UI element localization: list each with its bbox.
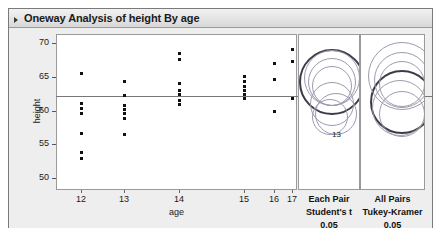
x-tick-label: 12 bbox=[66, 194, 96, 204]
data-point bbox=[80, 102, 83, 105]
comparison-circles-panel-each-pair[interactable]: 13 bbox=[298, 34, 360, 190]
data-point bbox=[243, 93, 246, 96]
triangle-down-icon[interactable] bbox=[13, 14, 22, 23]
data-point bbox=[243, 80, 246, 83]
data-point bbox=[80, 112, 83, 115]
screenshot-root: Oneway Analysis of height By age height5… bbox=[0, 0, 441, 236]
data-point bbox=[80, 151, 83, 154]
x-tick-mark bbox=[124, 190, 125, 193]
comparison-circle[interactable] bbox=[379, 91, 425, 137]
comparison-circle[interactable] bbox=[315, 93, 357, 135]
data-point bbox=[123, 117, 126, 120]
comparison-circle-group-label: 13 bbox=[332, 130, 341, 139]
window-title-bar: Oneway Analysis of height By age bbox=[9, 9, 432, 28]
data-point bbox=[123, 112, 126, 115]
panel-caption-line-3: 0.05 bbox=[354, 220, 431, 230]
y-tick-label: 55 bbox=[27, 138, 49, 148]
page-title: Oneway Analysis of height By age bbox=[24, 12, 200, 24]
x-tick-mark bbox=[274, 190, 275, 193]
x-tick-mark bbox=[244, 190, 245, 193]
data-point bbox=[291, 48, 294, 51]
data-point bbox=[273, 110, 276, 113]
y-tick-label: 65 bbox=[27, 71, 49, 81]
data-point bbox=[178, 93, 181, 96]
x-tick-mark bbox=[292, 190, 293, 193]
panel-caption-line-2: Tukey-Kramer bbox=[354, 207, 431, 217]
x-axis-label: age bbox=[56, 207, 297, 217]
data-point bbox=[291, 97, 294, 100]
x-tick-label: 15 bbox=[229, 194, 259, 204]
data-point bbox=[80, 157, 83, 160]
data-point bbox=[178, 99, 181, 102]
x-tick-label: 13 bbox=[109, 194, 139, 204]
data-point bbox=[178, 58, 181, 61]
data-point bbox=[273, 78, 276, 81]
panel-caption-line-1: All Pairs bbox=[354, 194, 431, 204]
data-point bbox=[123, 133, 126, 136]
data-point bbox=[80, 132, 83, 135]
data-point bbox=[123, 80, 126, 83]
data-point bbox=[178, 82, 181, 85]
data-point bbox=[123, 104, 126, 107]
x-tick-mark bbox=[179, 190, 180, 193]
comparison-circles-panel-all-pairs[interactable] bbox=[360, 34, 425, 190]
data-point bbox=[123, 94, 126, 97]
data-point bbox=[178, 52, 181, 55]
y-tick-label: 50 bbox=[27, 172, 49, 182]
y-tick-label: 70 bbox=[27, 37, 49, 47]
data-point bbox=[273, 62, 276, 65]
chart-area: height5055606570121314151617age 13Each P… bbox=[9, 28, 432, 228]
x-tick-label: 14 bbox=[164, 194, 194, 204]
y-tick-label: 60 bbox=[27, 105, 49, 115]
x-tick-mark bbox=[81, 190, 82, 193]
data-point bbox=[243, 97, 246, 100]
data-point bbox=[123, 108, 126, 111]
scatter-plot-frame bbox=[56, 34, 297, 190]
data-point bbox=[243, 75, 246, 78]
data-point bbox=[80, 107, 83, 110]
data-point bbox=[80, 72, 83, 75]
oneway-analysis-window: Oneway Analysis of height By age height5… bbox=[8, 8, 433, 228]
data-point bbox=[243, 89, 246, 92]
data-point bbox=[291, 60, 294, 63]
data-point bbox=[178, 103, 181, 106]
data-point bbox=[243, 85, 246, 88]
data-point bbox=[178, 89, 181, 92]
